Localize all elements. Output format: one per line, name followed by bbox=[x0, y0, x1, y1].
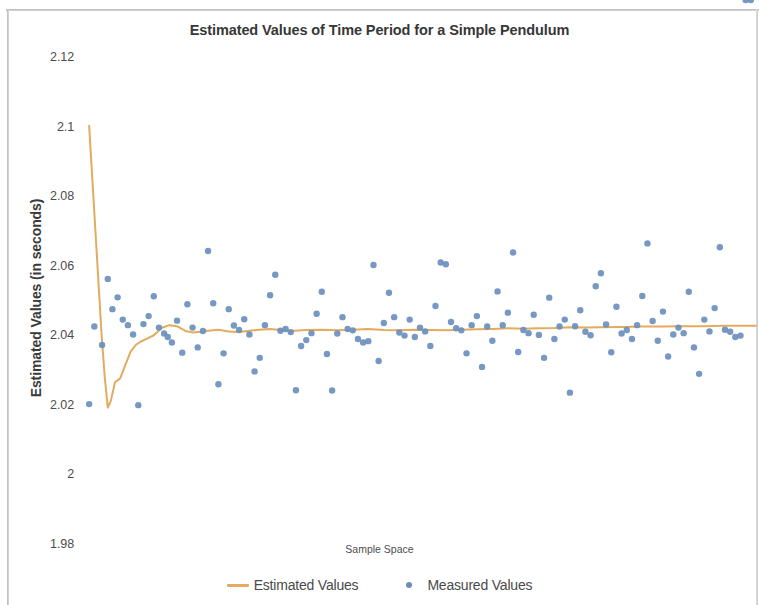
data-point bbox=[665, 353, 671, 359]
data-point bbox=[282, 326, 288, 332]
data-point bbox=[479, 364, 485, 370]
data-point bbox=[350, 327, 356, 333]
data-point bbox=[422, 328, 428, 334]
data-point bbox=[381, 320, 387, 326]
data-point bbox=[680, 330, 686, 336]
y-axis-tick-label: 2.1 bbox=[28, 120, 74, 134]
data-point bbox=[551, 336, 557, 342]
measured-values-points bbox=[86, 0, 754, 408]
data-point bbox=[241, 316, 247, 322]
y-axis-tick-label: 2.04 bbox=[28, 328, 74, 342]
legend-item-measured-values[interactable]: Measured Values bbox=[402, 577, 532, 593]
x-axis-title: Sample Space bbox=[0, 543, 759, 555]
data-point bbox=[135, 402, 141, 408]
data-point bbox=[686, 289, 692, 295]
data-point bbox=[722, 326, 728, 332]
page-border-top bbox=[6, 9, 759, 11]
data-point bbox=[114, 294, 120, 300]
data-point bbox=[417, 324, 423, 330]
data-point bbox=[732, 334, 738, 340]
data-point bbox=[587, 332, 593, 338]
data-point bbox=[226, 306, 232, 312]
data-point bbox=[370, 262, 376, 268]
data-point bbox=[267, 292, 273, 298]
data-point bbox=[165, 334, 171, 340]
data-point bbox=[401, 332, 407, 338]
data-point bbox=[629, 336, 635, 342]
data-point bbox=[443, 261, 449, 267]
y-axis-tick-label: 2.08 bbox=[28, 189, 74, 203]
data-point bbox=[391, 314, 397, 320]
data-point bbox=[174, 317, 180, 323]
data-point bbox=[624, 327, 630, 333]
data-point bbox=[448, 319, 454, 325]
y-axis-title: Estimated Values (in seconds) bbox=[28, 183, 44, 413]
data-point bbox=[365, 338, 371, 344]
page-border-right bbox=[756, 9, 758, 605]
data-point bbox=[505, 309, 511, 315]
data-point bbox=[339, 314, 345, 320]
data-point bbox=[727, 329, 733, 335]
chart-figure: Estimated Values of Time Period for a Si… bbox=[0, 0, 759, 605]
data-point bbox=[489, 338, 495, 344]
data-point bbox=[670, 331, 676, 337]
data-point bbox=[468, 322, 474, 328]
y-axis-tick-label: 2.02 bbox=[28, 398, 74, 412]
data-point bbox=[644, 240, 650, 246]
data-point bbox=[520, 327, 526, 333]
data-point bbox=[215, 381, 221, 387]
y-axis-tick-label: 2.12 bbox=[28, 50, 74, 64]
data-point bbox=[396, 329, 402, 335]
legend-item-estimated-values[interactable]: Estimated Values bbox=[227, 577, 359, 593]
data-point bbox=[608, 349, 614, 355]
page-border-left bbox=[7, 9, 9, 605]
data-point bbox=[437, 259, 443, 265]
data-point bbox=[634, 322, 640, 328]
data-point bbox=[169, 339, 175, 345]
data-point bbox=[603, 321, 609, 327]
data-point bbox=[427, 343, 433, 349]
data-point bbox=[120, 316, 126, 322]
data-point bbox=[531, 312, 537, 318]
data-point bbox=[546, 294, 552, 300]
data-point bbox=[541, 355, 547, 361]
data-point bbox=[463, 350, 469, 356]
data-point bbox=[105, 276, 111, 282]
data-point bbox=[618, 330, 624, 336]
data-point bbox=[189, 324, 195, 330]
data-point bbox=[649, 318, 655, 324]
data-point bbox=[515, 349, 521, 355]
data-point bbox=[145, 313, 151, 319]
data-point bbox=[577, 307, 583, 313]
data-point bbox=[298, 343, 304, 349]
data-point bbox=[458, 327, 464, 333]
data-point bbox=[432, 303, 438, 309]
data-point bbox=[319, 289, 325, 295]
data-point bbox=[205, 248, 211, 254]
data-point bbox=[293, 387, 299, 393]
data-point bbox=[210, 300, 216, 306]
data-point bbox=[308, 330, 314, 336]
data-point bbox=[324, 351, 330, 357]
data-point bbox=[220, 350, 226, 356]
line-swatch-icon bbox=[227, 584, 249, 587]
data-point bbox=[500, 322, 506, 328]
data-point bbox=[453, 325, 459, 331]
data-point bbox=[639, 293, 645, 299]
data-point bbox=[593, 283, 599, 289]
data-point bbox=[86, 401, 92, 407]
data-point bbox=[288, 329, 294, 335]
data-point bbox=[556, 323, 562, 329]
data-point bbox=[277, 328, 283, 334]
dot-swatch-icon bbox=[406, 582, 412, 588]
estimated-values-line bbox=[89, 126, 756, 408]
data-point bbox=[484, 323, 490, 329]
data-point bbox=[195, 344, 201, 350]
data-point bbox=[161, 330, 167, 336]
data-point bbox=[510, 249, 516, 255]
data-point bbox=[562, 316, 568, 322]
data-point bbox=[567, 389, 573, 395]
data-point bbox=[691, 344, 697, 350]
data-point bbox=[179, 349, 185, 355]
data-point bbox=[717, 244, 723, 250]
